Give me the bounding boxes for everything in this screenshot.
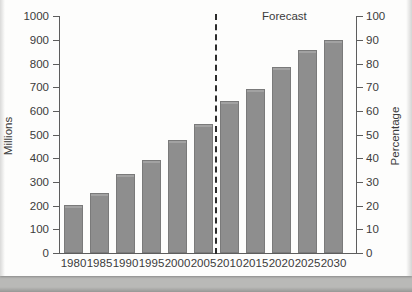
- y-tick-right: [357, 64, 363, 65]
- y-tick-right: [357, 16, 363, 17]
- y-tick-label-left-400: 400: [30, 153, 49, 164]
- y-tick-right: [357, 111, 363, 112]
- screenshot-root: 0 100 200 300 400 500 600 700 800 900 10…: [0, 0, 412, 292]
- bar-2000[interactable]: [168, 140, 187, 253]
- bar-2025[interactable]: [298, 50, 317, 253]
- bar-2015[interactable]: [246, 89, 265, 253]
- bar-2005[interactable]: [194, 124, 213, 253]
- bar-1980[interactable]: [64, 205, 83, 253]
- y-tick-right: [357, 182, 363, 183]
- x-tick-label-2030: 2030: [313, 257, 354, 269]
- bar-2030[interactable]: [324, 40, 343, 253]
- y-axis-right-title: Percentage: [389, 106, 401, 166]
- y-tick-label-left-800: 800: [30, 59, 49, 70]
- y-tick-label-left-200: 200: [30, 201, 49, 212]
- x-axis-line: [59, 253, 357, 254]
- y-tick-label-right-0: 0: [366, 248, 372, 259]
- y-tick-right: [357, 253, 363, 254]
- forecast-divider-line: [215, 14, 217, 254]
- y-tick-left: [53, 158, 59, 159]
- y-tick-label-right-60: 60: [366, 106, 379, 117]
- y-tick-label-right-50: 50: [366, 130, 379, 141]
- bar-2010[interactable]: [220, 101, 239, 253]
- y-tick-left: [53, 135, 59, 136]
- y-tick-right: [357, 40, 363, 41]
- y-tick-right: [357, 229, 363, 230]
- y-tick-label-left-100: 100: [30, 224, 49, 235]
- forecast-label: Forecast: [262, 10, 307, 22]
- y-tick-label-right-30: 30: [366, 177, 379, 188]
- y-tick-right: [357, 158, 363, 159]
- y-tick-label-right-90: 90: [366, 35, 379, 46]
- y-tick-left: [53, 40, 59, 41]
- y-tick-right: [357, 87, 363, 88]
- y-tick-label-left-600: 600: [30, 106, 49, 117]
- y-tick-left: [53, 111, 59, 112]
- y-tick-left: [53, 253, 59, 254]
- y-tick-label-right-40: 40: [366, 153, 379, 164]
- bar-1995[interactable]: [142, 160, 161, 253]
- y-tick-left: [53, 182, 59, 183]
- y-tick-right: [357, 206, 363, 207]
- y-tick-label-right-20: 20: [366, 201, 379, 212]
- y-tick-left: [53, 206, 59, 207]
- y-axis-left-line: [59, 16, 60, 254]
- bar-1990[interactable]: [116, 174, 135, 253]
- y-tick-label-left-700: 700: [30, 82, 49, 93]
- y-tick-label-right-100: 100: [366, 11, 385, 22]
- y-tick-label-left-900: 900: [30, 35, 49, 46]
- page-edge-bottom: [0, 287, 412, 292]
- y-tick-left: [53, 64, 59, 65]
- y-tick-label-left-1000: 1000: [23, 11, 49, 22]
- bar-1985[interactable]: [90, 193, 109, 253]
- y-tick-left: [53, 229, 59, 230]
- bar-chart: 0 100 200 300 400 500 600 700 800 900 10…: [0, 0, 412, 276]
- y-tick-left: [53, 87, 59, 88]
- y-tick-label-left-0: 0: [43, 248, 49, 259]
- y-tick-left: [53, 16, 59, 17]
- y-tick-label-right-10: 10: [366, 224, 379, 235]
- y-tick-label-left-500: 500: [30, 130, 49, 141]
- y-axis-left-title: Millions: [2, 106, 14, 166]
- y-tick-label-left-300: 300: [30, 177, 49, 188]
- y-tick-label-right-70: 70: [366, 82, 379, 93]
- y-tick-right: [357, 135, 363, 136]
- bar-2020[interactable]: [272, 67, 291, 253]
- y-tick-label-right-80: 80: [366, 59, 379, 70]
